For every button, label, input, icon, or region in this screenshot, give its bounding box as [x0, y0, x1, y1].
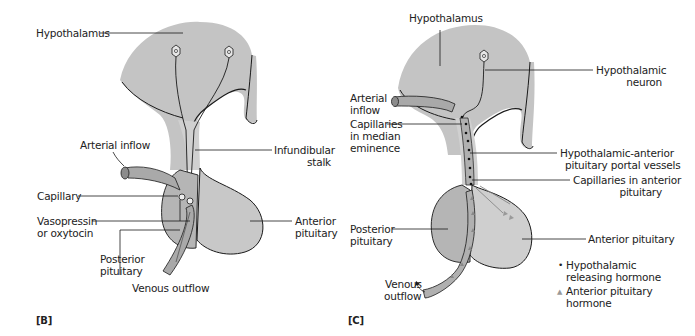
panel-tag-b: [B] — [36, 315, 52, 327]
label-vasopressin-2: or oxytocin — [37, 227, 93, 239]
legend-item-2-line1: Anterior pituitary — [566, 285, 652, 297]
dot-icon: • — [558, 259, 563, 271]
label-anterior-c: Anterior pituitary — [588, 233, 674, 245]
anterior-pituitary-b — [197, 168, 263, 254]
panel-c-drawing — [387, 25, 593, 298]
label-capillary: Capillary — [37, 190, 81, 202]
label-arterial-c-2: inflow — [350, 104, 380, 116]
label-posterior-b-2: pituitary — [100, 265, 143, 277]
panel-tag-c: [C] — [348, 315, 364, 327]
label-anterior-b-1: Anterior — [295, 215, 336, 227]
label-vasopressin-1: Vasopressin — [37, 215, 97, 227]
label-infundibular-stalk-2: stalk — [274, 156, 331, 168]
label-portal-2: pituitary portal vessels — [565, 159, 681, 171]
label-infundibular-stalk-1: Infundibular — [274, 144, 335, 156]
triangle-icon: ▲ — [557, 286, 562, 298]
label-cap-anterior-1: Capillaries in anterior — [573, 174, 681, 186]
label-arterial-inflow-b: Arterial inflow — [80, 139, 150, 151]
label-arterial-c-1: Arterial — [350, 92, 387, 104]
label-cap-median-1: Capillaries — [350, 118, 403, 130]
label-portal-1: Hypothalamic-anterior — [560, 147, 674, 159]
label-cap-median-2: in median — [350, 130, 400, 142]
label-hypothalamic-neuron-2: neuron — [596, 76, 662, 88]
label-anterior-b-2: pituitary — [295, 227, 338, 239]
label-cap-anterior-2: pituitary — [573, 186, 662, 198]
legend-item-2-line2: hormone — [566, 297, 612, 309]
label-posterior-b-1: Posterior — [100, 253, 145, 265]
label-hypothalamus-c: Hypothalamus — [409, 12, 483, 24]
label-posterior-c-1: Posterior — [350, 223, 395, 235]
label-posterior-c-2: pituitary — [350, 235, 393, 247]
label-cap-median-3: eminence — [350, 142, 400, 154]
label-hypothalamic-neuron-1: Hypothalamic — [596, 64, 666, 76]
artery-b — [125, 167, 180, 190]
label-venous-c-2: outflow — [384, 290, 421, 302]
label-venous-c-1: Venous — [385, 278, 422, 290]
anterior-pituitary-c — [470, 185, 532, 268]
legend-item-1-line1: Hypothalamic — [566, 259, 636, 271]
label-hypothalamus-b: Hypothalamus — [36, 27, 110, 39]
legend-item-1-line2: releasing hormone — [566, 271, 661, 283]
label-venous-outflow-b: Venous outflow — [132, 282, 209, 294]
